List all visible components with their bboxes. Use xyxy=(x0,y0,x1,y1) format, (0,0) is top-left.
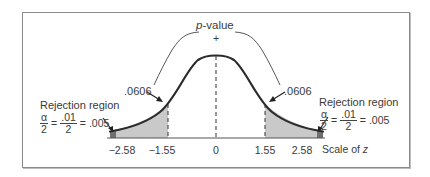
point01-over-2: .012 xyxy=(340,109,357,131)
point01-over-2: .012 xyxy=(60,112,77,134)
pvalue-connector-left xyxy=(154,32,199,85)
pvalue-text: -value xyxy=(202,19,233,31)
tick-258: 2.58 xyxy=(292,144,312,156)
pvalue-label: p-value xyxy=(196,20,234,32)
pvalue-connector-right xyxy=(235,32,280,85)
left-tail-prob: .0606 xyxy=(124,86,152,97)
right-tail-prob: .0606 xyxy=(284,86,312,97)
alpha-over-2: α2 xyxy=(320,109,328,131)
tick-neg155: −1.55 xyxy=(149,144,176,156)
left-rejection-label: Rejection region xyxy=(40,100,120,111)
tick-zero: 0 xyxy=(213,144,219,156)
pvalue-plus: + xyxy=(213,33,219,44)
left-tail-shade xyxy=(116,104,168,138)
alpha-over-2: α2 xyxy=(40,112,48,134)
right-rejection-label: Rejection region xyxy=(319,97,399,108)
right-rejection-formula: α2 = .012 = .005 xyxy=(320,109,389,131)
scale-of-z-label: Scale of z xyxy=(322,144,368,155)
tick-neg258: −2.58 xyxy=(109,144,136,156)
tick-155: 1.55 xyxy=(255,144,275,156)
left-rejection-formula: α2 = .012 = .005 xyxy=(40,112,109,134)
right-tail-shade xyxy=(265,104,317,138)
